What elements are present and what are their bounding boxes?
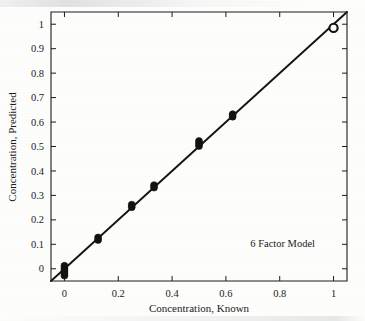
y-tick-label: 0.2 — [31, 214, 44, 225]
x-tick-label: 1 — [331, 288, 336, 299]
data-point — [61, 272, 68, 279]
y-axis-label: Concentration, Predicted — [6, 92, 18, 202]
y-tick-label: 0.6 — [31, 117, 44, 128]
x-tick-label: 0.8 — [273, 288, 286, 299]
data-point — [95, 236, 102, 243]
x-tick-label: 0 — [62, 288, 67, 299]
y-axis-tick-labels: 00.10.20.30.40.50.60.70.80.91 — [31, 19, 45, 275]
figure-page: 00.20.40.60.81 00.10.20.30.40.50.60.70.8… — [0, 0, 365, 321]
data-point — [329, 24, 337, 32]
y-tick-label: 0.7 — [31, 92, 44, 103]
x-axis-tick-labels: 00.20.40.60.81 — [62, 288, 336, 299]
data-point — [128, 204, 135, 211]
model-annotation: 6 Factor Model — [250, 238, 315, 249]
data-point — [196, 143, 203, 150]
y-tick-label: 0.5 — [31, 141, 44, 152]
y-tick-label: 0.8 — [31, 68, 44, 79]
y-tick-label: 0.1 — [31, 239, 44, 250]
x-tick-label: 0.6 — [219, 288, 232, 299]
x-axis-label: Concentration, Known — [149, 302, 250, 314]
y-tick-label: 1 — [39, 19, 44, 30]
data-point — [229, 113, 236, 120]
y-tick-label: 0.9 — [31, 43, 44, 54]
x-tick-label: 0.2 — [112, 288, 125, 299]
x-tick-label: 0.4 — [166, 288, 180, 299]
y-tick-label: 0 — [39, 263, 44, 274]
parity-plot: 00.20.40.60.81 00.10.20.30.40.50.60.70.8… — [0, 0, 365, 321]
y-tick-label: 0.3 — [31, 190, 44, 201]
y-tick-label: 0.4 — [31, 166, 45, 177]
data-point — [151, 184, 158, 191]
